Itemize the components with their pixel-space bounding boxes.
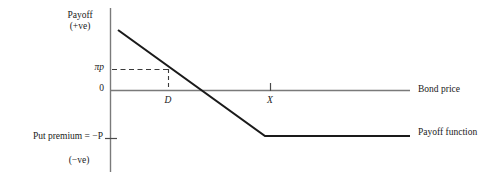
x-tick-label-d: D xyxy=(157,95,179,106)
y-tick-label-pi-p: πp xyxy=(76,62,104,73)
y-axis-title-line1: Payoff xyxy=(67,10,92,20)
series-label-bond-price: Bond price xyxy=(418,84,460,95)
y-axis-title-line2: (+ve) xyxy=(54,21,106,32)
series-label-payoff-function: Payoff function xyxy=(418,127,477,138)
x-tick-label-x: X xyxy=(259,95,281,106)
payoff-function-curve xyxy=(118,30,410,136)
y-axis-title: Payoff (+ve) xyxy=(54,10,106,32)
y-tick-label-put-premium: Put premium = −P xyxy=(10,131,103,142)
y-axis-negative-note: (−ve) xyxy=(54,155,104,166)
y-tick-label-zero: 0 xyxy=(76,83,104,94)
put-payoff-diagram: Payoff (+ve) πp 0 Put premium = −P (−ve)… xyxy=(0,0,501,177)
